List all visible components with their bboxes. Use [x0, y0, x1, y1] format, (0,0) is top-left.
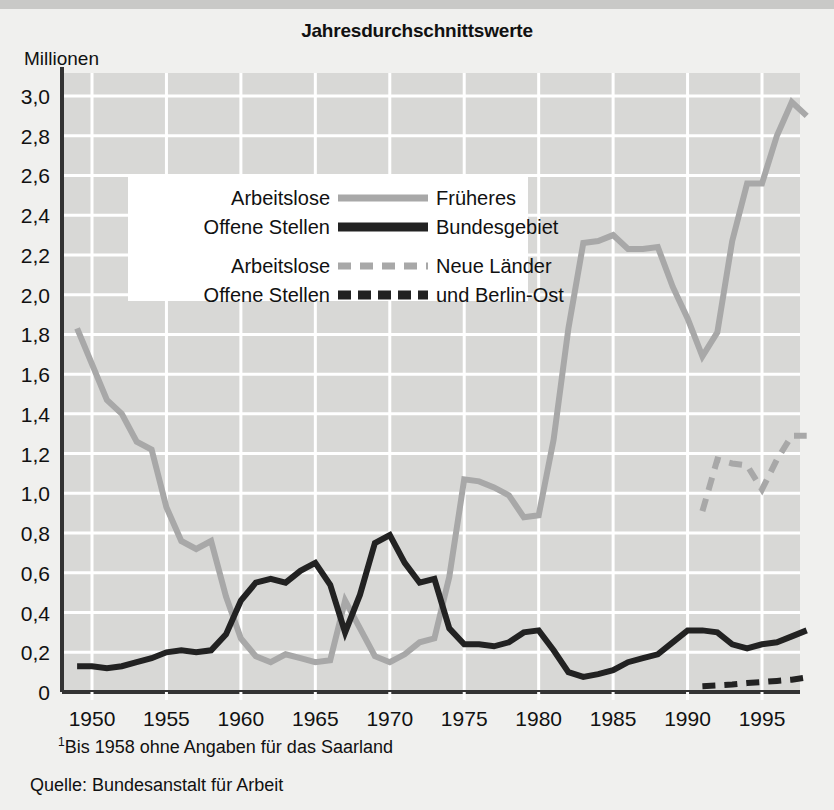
- legend-label-left: Offene Stellen: [204, 216, 330, 238]
- plot-area: [62, 73, 800, 692]
- x-axis-tick-label: 1950: [69, 707, 116, 730]
- legend-label-left: Arbeitslose: [231, 255, 330, 277]
- footnote-saarland-text: Bis 1958 ohne Angaben für das Saarland: [65, 737, 393, 757]
- footnote-saarland: 1Bis 1958 ohne Angaben für das Saarland: [58, 735, 393, 758]
- y-axis-ticks: 00,20,40,60,81,01,21,41,61,82,02,22,42,6…: [21, 85, 51, 704]
- y-axis-tick-label: 3,0: [21, 85, 50, 108]
- x-axis-tick-label: 1955: [143, 707, 190, 730]
- x-axis-tick-label: 1980: [515, 707, 562, 730]
- y-axis-tick-label: 2,6: [21, 164, 50, 187]
- y-axis-tick-label: 1,0: [21, 482, 50, 505]
- x-axis-tick-label: 1995: [739, 707, 786, 730]
- y-axis-tick-label: 1,4: [21, 403, 51, 426]
- y-axis-tick-label: 2,2: [21, 244, 50, 267]
- y-axis-tick-label: 0,8: [21, 522, 50, 545]
- y-axis-tick-label: 1,6: [21, 363, 50, 386]
- y-axis-tick-label: 2,0: [21, 284, 50, 307]
- plot-background: [62, 73, 800, 692]
- y-axis-tick-label: 2,8: [21, 125, 50, 148]
- x-axis-tick-label: 1990: [664, 707, 711, 730]
- chart-figure: Jahresdurchschnittswerte Millionen 00,20…: [0, 0, 834, 810]
- chart-legend: ArbeitsloseFrüheresOffene StellenBundesg…: [128, 176, 564, 306]
- legend-label-left: Arbeitslose: [231, 187, 330, 209]
- y-axis-tick-label: 0,4: [21, 602, 51, 625]
- legend-label-right: und Berlin-Ost: [436, 284, 564, 306]
- y-axis-tick-label: 0,2: [21, 641, 50, 664]
- y-axis-tick-label: 0,6: [21, 562, 50, 585]
- legend-label-right: Bundesgebiet: [436, 216, 559, 238]
- legend-label-left: Offene Stellen: [204, 284, 330, 306]
- y-axis-tick-label: 0: [38, 681, 50, 704]
- legend-label-right: Früheres: [436, 187, 516, 209]
- footnote-marker: 1: [58, 735, 65, 749]
- x-axis-tick-label: 1960: [218, 707, 265, 730]
- legend-label-right: Neue Länder: [436, 255, 552, 277]
- x-axis-tick-label: 1975: [441, 707, 488, 730]
- x-axis-tick-label: 1985: [590, 707, 637, 730]
- x-axis-ticks: 1950195519601965197019751980198519901995: [69, 707, 786, 730]
- y-axis-tick-label: 1,2: [21, 443, 50, 466]
- footnote-source: Quelle: Bundesanstalt für Arbeit: [30, 775, 283, 796]
- y-axis-tick-label: 1,8: [21, 323, 50, 346]
- y-axis-tick-label: 2,4: [21, 204, 51, 227]
- x-axis-tick-label: 1970: [366, 707, 413, 730]
- x-axis-tick-label: 1965: [292, 707, 339, 730]
- line-chart: 00,20,40,60,81,01,21,41,61,82,02,22,42,6…: [0, 0, 834, 810]
